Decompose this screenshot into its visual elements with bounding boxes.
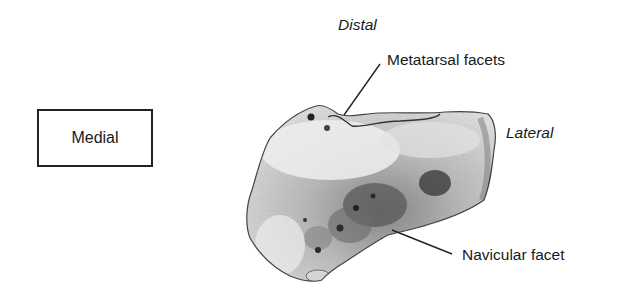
medial-label-box: Medial <box>37 109 153 167</box>
navicular-leader-line <box>392 230 452 254</box>
bone-shape <box>247 105 496 282</box>
metatarsal-leader-line <box>344 64 380 115</box>
medial-label: Medial <box>71 129 118 147</box>
navicular-facet-label: Navicular facet <box>462 247 565 263</box>
lateral-label: Lateral <box>506 125 553 141</box>
metatarsal-facets-label: Metatarsal facets <box>387 52 505 68</box>
distal-label: Distal <box>338 17 377 33</box>
